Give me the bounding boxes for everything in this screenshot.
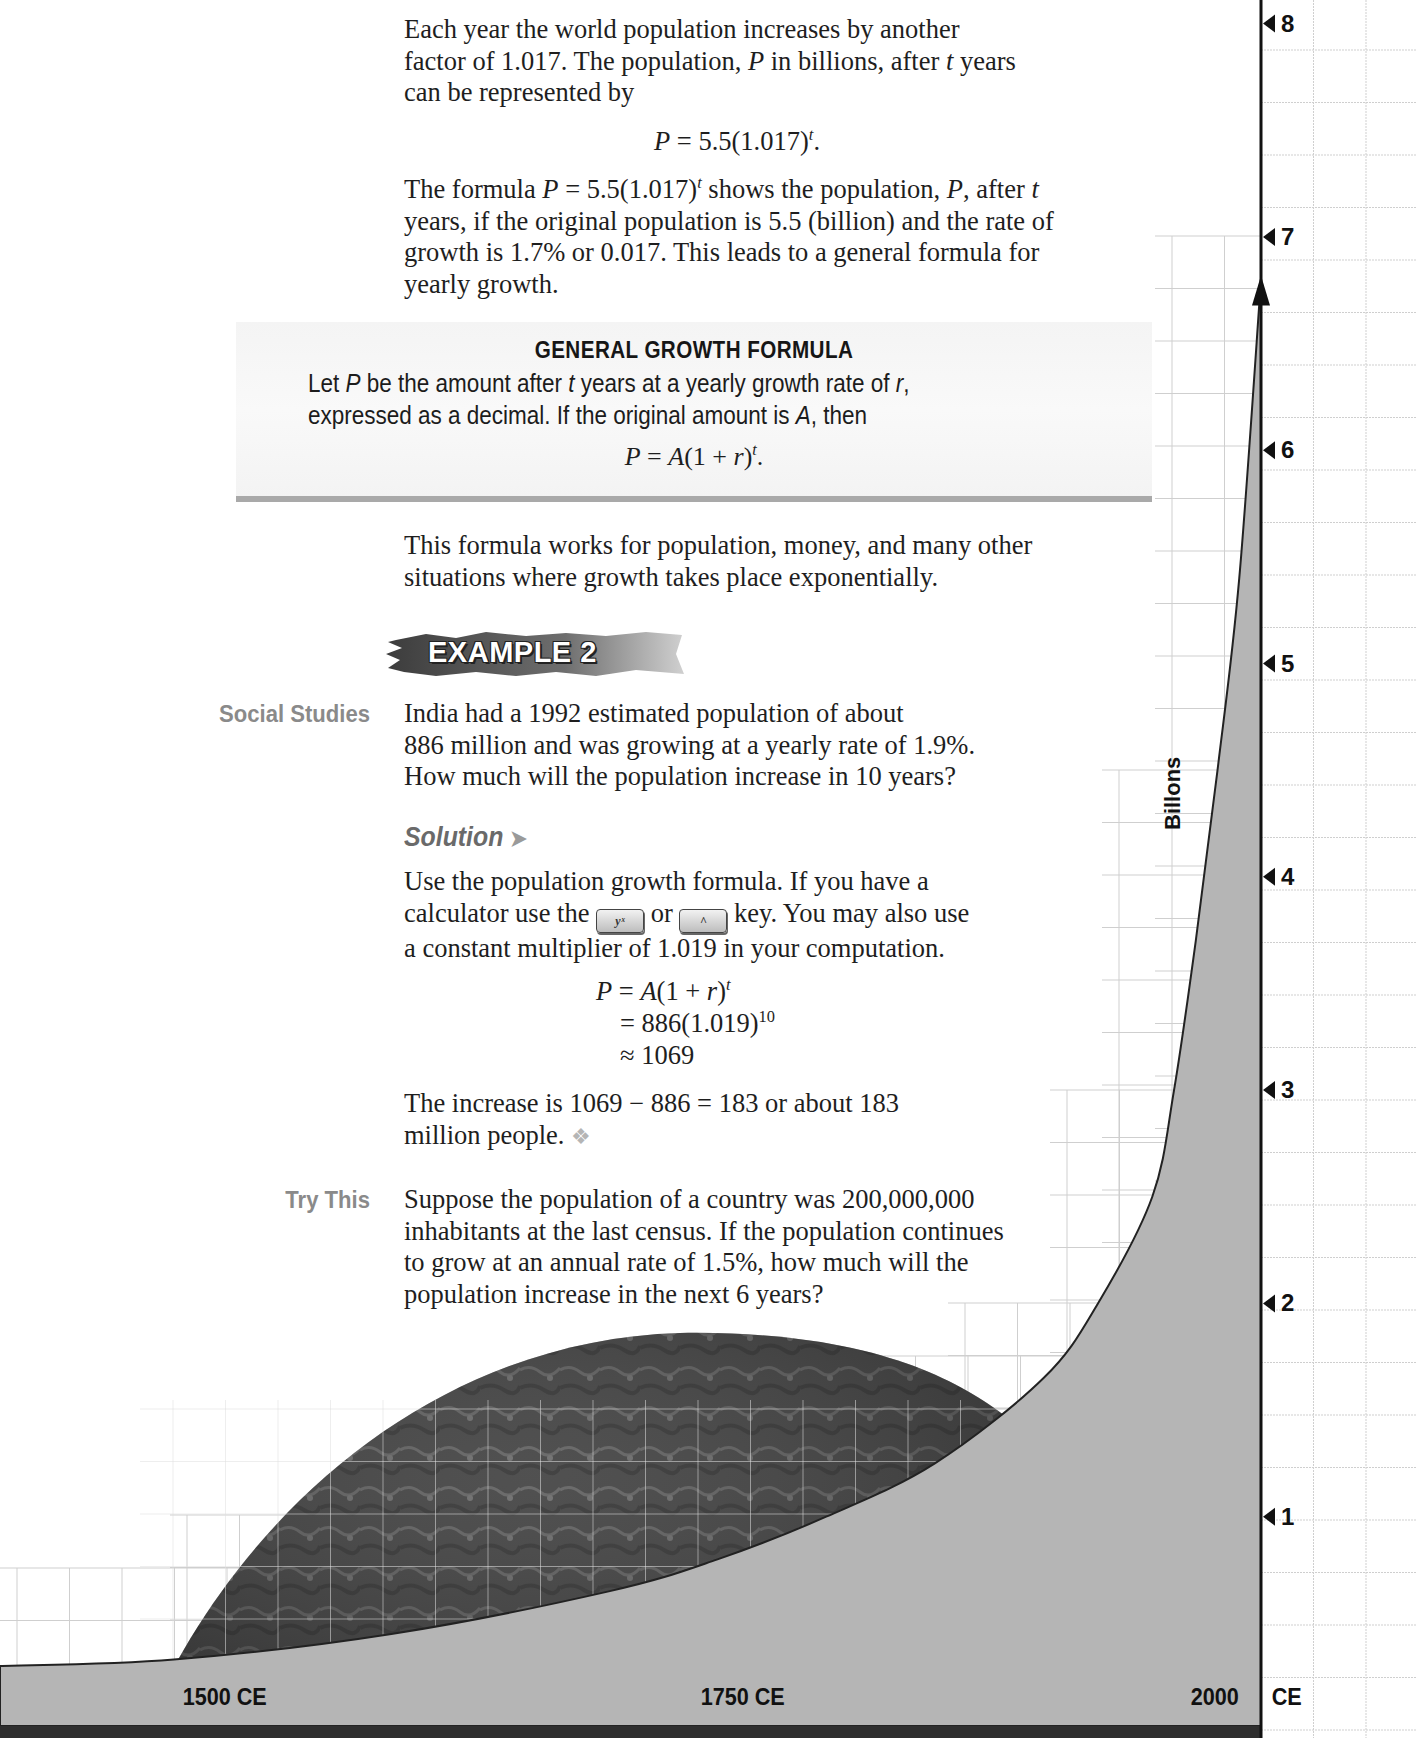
solution-text: Use the population growth formula. If yo…: [404, 866, 1164, 964]
intro-paragraph: Each year the world population increases…: [404, 14, 1164, 109]
y-tick-marker-icon: [1263, 1081, 1275, 1099]
y-tick-label: 8: [1281, 10, 1294, 38]
box-definition: Let P be the amount after t years at a y…: [308, 368, 1118, 431]
solution-result: The increase is 1069 − 886 = 183 or abou…: [404, 1088, 1164, 1152]
y-tick-label: 2: [1281, 1289, 1294, 1317]
y-tick-label: 7: [1281, 223, 1294, 251]
text-line: The increase is 1069 − 886 = 183 or abou…: [404, 1088, 1164, 1120]
y-tick-label: 3: [1281, 1076, 1294, 1104]
text-line: situations where growth takes place expo…: [404, 562, 1164, 594]
box-title: GENERAL GROWTH FORMULA: [300, 336, 1088, 364]
social-studies-label: Social Studies: [149, 700, 370, 728]
x-tick-label-2000: 2000: [1191, 1683, 1239, 1711]
calculator-yx-key-icon: yˣ: [596, 909, 644, 933]
text-line: Each year the world population increases…: [404, 14, 1164, 46]
y-tick-marker-icon: [1263, 228, 1275, 246]
bottom-photo-strip: [0, 1726, 1262, 1738]
equation-population: P = 5.5(1.017)t.: [654, 126, 820, 157]
text-line: The formula P = 5.5(1.017)t shows the po…: [404, 174, 1164, 206]
y-axis-ticks: [1263, 15, 1275, 1526]
text-line: population increase in the next 6 years?: [404, 1279, 1164, 1311]
text-line: How much will the population increase in…: [404, 761, 1164, 793]
y-tick-marker-icon: [1263, 868, 1275, 886]
example-title: EXAMPLE 2: [428, 636, 597, 669]
calculator-caret-key-icon: ^: [679, 909, 727, 933]
text-line: a constant multiplier of 1.019 in your c…: [404, 933, 1164, 965]
y-tick-marker-icon: [1263, 15, 1275, 33]
text-line: to grow at an annual rate of 1.5%, how m…: [404, 1247, 1164, 1279]
y-tick-marker-icon: [1263, 441, 1275, 459]
x-tick-label-1500: 1500 CE: [183, 1683, 267, 1711]
y-tick-marker-icon: [1263, 1508, 1275, 1526]
text-line: years, if the original population is 5.5…: [404, 206, 1164, 238]
y-tick-marker-icon: [1263, 655, 1275, 673]
example-problem: India had a 1992 estimated population of…: [404, 698, 1164, 793]
y-tick-label: 5: [1281, 650, 1294, 678]
general-growth-formula-box: GENERAL GROWTH FORMULA Let P be the amou…: [236, 322, 1152, 498]
text-line: can be represented by: [404, 77, 1164, 109]
text-line: inhabitants at the last census. If the p…: [404, 1216, 1164, 1248]
x-tick-label-1750: 1750 CE: [701, 1683, 785, 1711]
solution-equation-line-3: ≈ 1069: [620, 1040, 694, 1071]
text-line: factor of 1.017. The population, P in bi…: [404, 46, 1164, 78]
formula-usage-paragraph: This formula works for population, money…: [404, 530, 1164, 593]
y-tick-label: 4: [1281, 863, 1294, 891]
y-tick-label: 6: [1281, 436, 1294, 464]
try-this-problem: Suppose the population of a country was …: [404, 1184, 1164, 1310]
y-axis-label: Billons: [1160, 757, 1186, 830]
arrow-right-icon: ➤: [510, 826, 527, 851]
text-line: Use the population growth formula. If yo…: [404, 866, 1164, 898]
text-line: calculator use the yˣ or ^ key. You may …: [404, 898, 1164, 933]
x-unit-label: CE: [1272, 1683, 1302, 1711]
solution-heading: Solution ➤: [404, 822, 527, 853]
text-line: yearly growth.: [404, 269, 1164, 301]
text-line: growth is 1.7% or 0.017. This leads to a…: [404, 237, 1164, 269]
box-bottom-rule: [236, 496, 1152, 502]
y-tick-label: 1: [1281, 1503, 1294, 1531]
text-line: India had a 1992 estimated population of…: [404, 698, 1164, 730]
solution-equation-line-2: = 886(1.019)10: [620, 1008, 775, 1039]
try-this-label: Try This: [149, 1186, 370, 1214]
general-formula-equation: P = A(1 + r)t.: [236, 442, 1152, 472]
example-banner: EXAMPLE 2: [386, 630, 686, 678]
text-line: This formula works for population, money…: [404, 530, 1164, 562]
y-axis-arrowhead: [1252, 276, 1270, 306]
text-line: Suppose the population of a country was …: [404, 1184, 1164, 1216]
formula-explanation-paragraph: The formula P = 5.5(1.017)t shows the po…: [404, 174, 1164, 300]
text-line: million people. ❖: [404, 1120, 1164, 1153]
end-of-example-icon: ❖: [571, 1124, 591, 1149]
text-line: 886 million and was growing at a yearly …: [404, 730, 1164, 762]
solution-equation-line-1: P = A(1 + r)t: [596, 976, 731, 1007]
